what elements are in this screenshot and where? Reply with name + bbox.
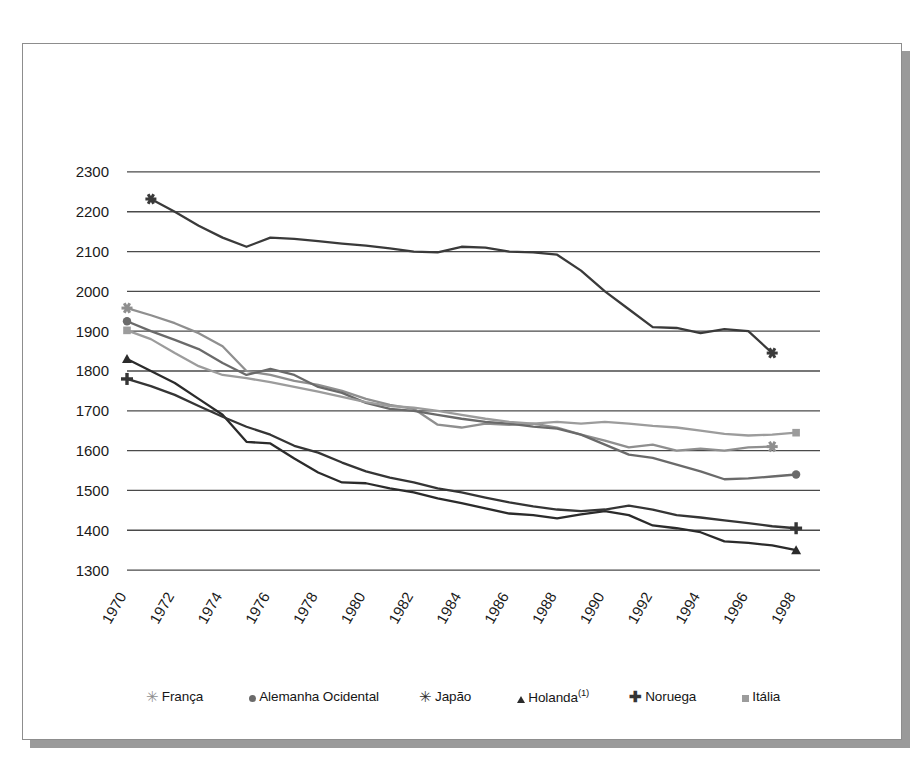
series-line	[127, 359, 796, 550]
chart-frame: 1300140015001600170018001900200021002200…	[22, 43, 902, 740]
legend-item-holanda[interactable]: Holanda(1)	[517, 687, 589, 705]
plot-area: 1300140015001600170018001900200021002200…	[23, 44, 903, 741]
x-axis-tick-label: 1998	[767, 589, 798, 626]
y-axis-tick-label: 1600	[76, 442, 109, 459]
y-axis-tick-label: 1900	[76, 323, 109, 340]
series-marker	[767, 348, 778, 359]
x-axis-tick-label: 1984	[433, 589, 464, 626]
y-axis-tick-label: 2000	[76, 283, 109, 300]
legend-footnote-marker: (1)	[578, 687, 589, 698]
y-axis-tick-label: 2200	[76, 203, 109, 220]
triangle-marker-icon	[517, 696, 525, 703]
legend-item-fran-a[interactable]: ✳França	[146, 688, 203, 704]
x-axis-tick-label: 1972	[146, 589, 177, 626]
x-axis-tick-label: 1976	[242, 589, 273, 626]
chart-legend: ✳FrançaAlemanha Ocidental✳JapãoHolanda(1…	[23, 676, 903, 716]
legend-item-jap-o[interactable]: ✳Japão	[419, 688, 471, 704]
series-marker	[122, 354, 132, 363]
y-axis-tick-label: 2300	[76, 163, 109, 180]
y-axis-tick-label: 1800	[76, 362, 109, 379]
x-axis-tick-label: 1974	[194, 589, 225, 626]
series-marker	[792, 429, 800, 437]
legend-label: Holanda(1)	[528, 687, 589, 705]
line-chart: 1300140015001600170018001900200021002200…	[23, 44, 903, 684]
asterisk-marker-icon: ✳	[419, 689, 432, 704]
series-marker	[121, 373, 133, 385]
x-axis-tick-label: 1986	[481, 589, 512, 626]
x-axis-tick-label: 1982	[385, 589, 416, 626]
series-line	[127, 321, 796, 479]
legend-item-it-lia[interactable]: Itália	[742, 689, 780, 704]
y-axis-tick-label: 2100	[76, 243, 109, 260]
series-marker	[122, 303, 133, 314]
plus-marker-icon: ✚	[629, 689, 642, 704]
legend-label: Japão	[435, 689, 471, 704]
asterisk-marker-icon: ✳	[146, 689, 159, 704]
legend-label: Alemanha Ocidental	[259, 689, 379, 704]
x-axis-tick-label: 1994	[672, 589, 703, 626]
circle-marker-icon	[249, 695, 256, 702]
x-axis-tick-label: 1992	[624, 589, 655, 626]
legend-label: Noruega	[645, 689, 696, 704]
y-axis-tick-label: 1700	[76, 402, 109, 419]
x-axis-tick-label: 1978	[289, 589, 320, 626]
y-axis-tick-label: 1400	[76, 522, 109, 539]
legend-label: Itália	[752, 689, 780, 704]
series-line	[127, 379, 796, 528]
series-marker	[790, 522, 802, 534]
x-axis-tick-label: 1980	[337, 589, 368, 626]
series-line	[127, 308, 772, 451]
square-marker-icon	[742, 695, 749, 702]
x-axis-tick-label: 1988	[528, 589, 559, 626]
x-axis-tick-label: 1990	[576, 589, 607, 626]
x-axis-tick-label: 1996	[719, 589, 750, 626]
series-marker	[145, 193, 156, 204]
series-line	[151, 199, 772, 353]
series-marker	[123, 327, 131, 335]
series-marker	[792, 470, 800, 478]
series-marker	[123, 317, 131, 325]
legend-label: França	[162, 689, 203, 704]
y-axis-tick-label: 1500	[76, 482, 109, 499]
y-axis-tick-label: 1300	[76, 562, 109, 579]
x-axis-tick-label: 1970	[98, 589, 129, 626]
chart-page: 1300140015001600170018001900200021002200…	[0, 0, 917, 764]
legend-item-noruega[interactable]: ✚Noruega	[629, 688, 696, 704]
legend-item-alemanha-ocidental[interactable]: Alemanha Ocidental	[249, 689, 379, 704]
